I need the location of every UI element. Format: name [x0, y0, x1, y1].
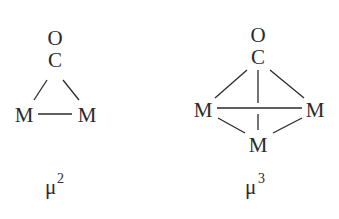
- mu2-label: μ: [45, 175, 56, 199]
- mu2-bond-c-m-right: [63, 80, 79, 100]
- mu3-metal-bottom: M: [249, 133, 268, 157]
- mu2-metal-left: M: [15, 103, 34, 127]
- mu3-label-superscript: 3: [258, 171, 265, 186]
- mu2-oxygen-atom: O: [47, 26, 62, 50]
- mu3-bond-c-m-left: [215, 70, 247, 98]
- mu3-oxygen-atom: O: [250, 23, 265, 47]
- mu3-metal-left: M: [194, 98, 213, 122]
- mu2-bond-c-m-left: [34, 80, 47, 100]
- mu2-label-superscript: 2: [57, 171, 64, 186]
- mu3-structure: O C M M M μ 3: [194, 23, 325, 199]
- mu2-structure: O C M M μ 2: [15, 26, 97, 199]
- mu3-bond-c-m-right: [270, 70, 304, 98]
- mu3-metal-right: M: [306, 98, 325, 122]
- mu2-metal-right: M: [78, 103, 97, 127]
- mu3-label: μ: [245, 175, 256, 199]
- mu2-carbon-atom: C: [48, 48, 62, 72]
- mu3-carbon-atom: C: [251, 45, 265, 69]
- mu3-bond-m-left-m-bottom: [218, 118, 245, 133]
- mu3-bond-m-right-m-bottom: [273, 118, 302, 133]
- diagram-canvas: O C M M μ 2 O C M M M μ 3: [0, 0, 339, 219]
